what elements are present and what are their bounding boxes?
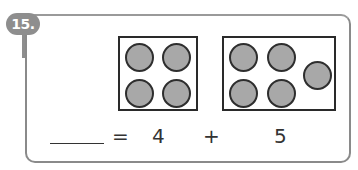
plus-sign: + [203, 124, 220, 148]
counter-dot [303, 61, 332, 90]
badge-stem [22, 33, 25, 58]
counter-frame-left [118, 36, 198, 111]
counter-dot [125, 43, 154, 72]
counter-frame-right [222, 36, 336, 111]
addend-1: 4 [152, 124, 165, 148]
counter-dot [125, 79, 154, 108]
equals-sign: = [112, 124, 129, 148]
answer-blank[interactable] [50, 143, 104, 144]
counter-dot [229, 43, 258, 72]
counter-dot [267, 43, 296, 72]
addend-2: 5 [274, 124, 287, 148]
counter-dot [162, 43, 191, 72]
counter-dot [267, 79, 296, 108]
counter-dot [229, 79, 258, 108]
problem-number-badge: 15. [6, 13, 40, 35]
counter-dot [162, 79, 191, 108]
